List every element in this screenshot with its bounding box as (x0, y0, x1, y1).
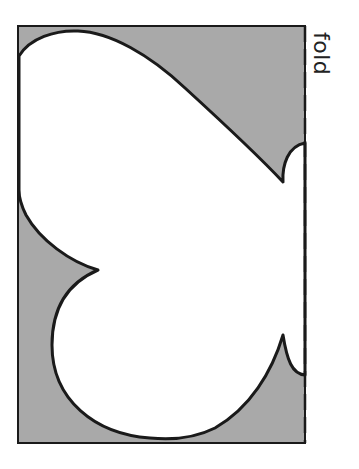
fold-label: fold (306, 30, 336, 90)
fold-label-text: fold (309, 32, 334, 75)
